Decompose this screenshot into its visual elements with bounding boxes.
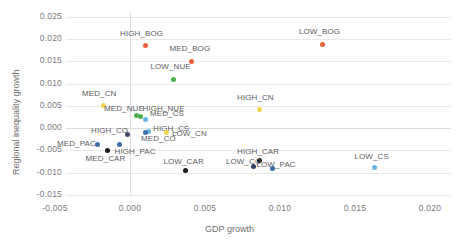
data-point[interactable]: [183, 168, 188, 173]
data-point[interactable]: [105, 148, 110, 153]
data-point-label: LOW_BOG: [299, 27, 340, 36]
x-axis-tick-label: 0.010: [257, 203, 303, 213]
y-axis-tick-label: 0.025: [18, 11, 62, 21]
data-point[interactable]: [372, 165, 377, 170]
data-point-label: HIGH_BOG: [120, 29, 163, 38]
y-axis-tick-label: 0.010: [18, 78, 62, 88]
y-axis-tick-label: -0.010: [18, 167, 62, 177]
data-point-label: MED_NUE: [104, 104, 144, 113]
gridline-horizontal: [66, 195, 451, 196]
plot-area: 0.0250.0200.0150.0100.0050.000-0.005-0.0…: [0, 0, 459, 244]
x-axis-tick-label: 0.020: [407, 203, 453, 213]
data-point-label: LOW_NUE: [151, 62, 191, 71]
x-axis-title: GDP growth: [0, 224, 459, 234]
y-axis-tick-label: 0.020: [18, 33, 62, 43]
y-axis-tick-label: -0.015: [18, 189, 62, 199]
y-axis-tick-label: 0.005: [18, 100, 62, 110]
data-point-label: HIGH_CO: [91, 126, 128, 135]
y-axis-tick-label: 0.015: [18, 55, 62, 65]
data-point[interactable]: [117, 142, 122, 147]
y-axis-tick-label: -0.005: [18, 144, 62, 154]
data-point-label: MED_CS: [150, 109, 184, 118]
data-point-label: MED_CAR: [86, 154, 126, 163]
x-axis-tick-label: 0.000: [107, 203, 153, 213]
gridline-horizontal: [66, 61, 451, 62]
gridline-horizontal: [66, 173, 451, 174]
data-point[interactable]: [143, 43, 148, 48]
gridline-horizontal: [66, 84, 451, 85]
data-point-label: LOW_CS: [355, 152, 389, 161]
data-point[interactable]: [257, 107, 262, 112]
scatter-chart: 0.0250.0200.0150.0100.0050.000-0.005-0.0…: [0, 0, 459, 244]
y-axis-tick-label: 0.000: [18, 122, 62, 132]
gridline-horizontal: [66, 17, 451, 18]
data-point-label: LOW_CN: [172, 129, 207, 138]
data-point-label: MED_CO: [141, 134, 176, 143]
data-point-label: HIGH_CAR: [237, 147, 279, 156]
data-point-label: LOW_PAC: [257, 160, 296, 169]
gridline-horizontal: [66, 39, 451, 40]
data-point-label: HIGH_CN: [237, 93, 274, 102]
data-point-label: MED_BOG: [170, 44, 211, 53]
x-axis-tick-label: -0.005: [32, 203, 78, 213]
data-point[interactable]: [320, 42, 325, 47]
data-point-label: MED_CN: [82, 89, 116, 98]
x-axis-tick-label: 0.005: [182, 203, 228, 213]
data-point-label: MED_PAC: [57, 139, 96, 148]
data-point[interactable]: [171, 77, 176, 82]
y-axis-title: Regional inequality growth: [11, 69, 21, 175]
data-point-label: LOW_CAR: [164, 157, 204, 166]
x-axis-tick-label: 0.015: [332, 203, 378, 213]
data-point[interactable]: [143, 117, 148, 122]
